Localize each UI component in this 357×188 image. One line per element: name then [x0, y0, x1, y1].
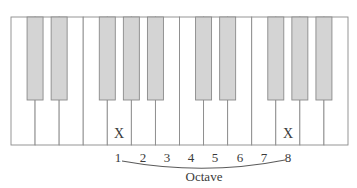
black-key: [147, 17, 163, 100]
black-key: [196, 17, 212, 100]
mark-start-x: X: [114, 126, 124, 141]
number-2: 2: [140, 150, 147, 165]
black-key: [220, 17, 236, 100]
scale-degree-numbers: 1 2 3 4 5 6 7 8: [115, 150, 292, 165]
octave-label: Octave: [186, 169, 223, 184]
number-1: 1: [115, 150, 122, 165]
piano-keyboard-diagram: X X 1 2 3 4 5 6 7 8 Octave: [0, 0, 357, 188]
black-key: [27, 17, 43, 100]
black-key: [292, 17, 308, 100]
number-4: 4: [188, 150, 195, 165]
number-6: 6: [237, 150, 244, 165]
black-key: [51, 17, 67, 100]
black-key: [99, 17, 115, 100]
mark-end-x: X: [283, 126, 293, 141]
black-key: [268, 17, 284, 100]
number-5: 5: [212, 150, 219, 165]
number-3: 3: [164, 150, 171, 165]
black-key: [123, 17, 139, 100]
number-8: 8: [285, 150, 292, 165]
black-key: [316, 17, 332, 100]
